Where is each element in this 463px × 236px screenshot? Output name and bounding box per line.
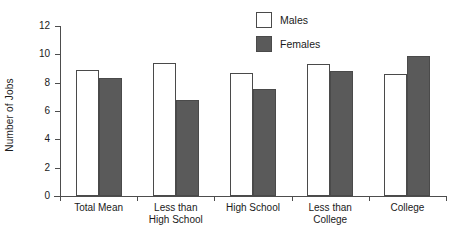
plot-area: 024681012 [60,26,446,196]
legend-label: Females [280,38,320,50]
bar-females-less-than-college [330,71,353,196]
x-category-label-line: Total Mean [60,202,137,214]
y-tick-label: 0 [26,191,50,201]
y-axis-line [60,26,61,196]
x-category-label-line: High School [137,214,214,226]
x-tick-mark [369,196,370,201]
y-tick-mark [55,83,60,84]
y-tick-mark [55,26,60,27]
bar-females-high-school [253,89,276,196]
y-tick-label: 2 [26,163,50,173]
bar-females-total-mean [99,78,122,196]
y-axis-title-label: Number of Jobs [4,60,15,170]
bar-males-college [384,74,407,196]
bar-males-less-than-college [307,64,330,196]
x-axis-line [54,196,446,197]
y-tick-label: 8 [26,78,50,88]
x-category-label: High School [214,202,291,214]
x-category-label: Less thanHigh School [137,202,214,225]
x-category-label-line: College [369,202,446,214]
x-category-label-line: Less than [292,202,369,214]
y-tick-label: 4 [26,134,50,144]
bar-females-less-than-high-school [176,100,199,196]
y-tick-mark [55,111,60,112]
y-tick-label: 10 [26,49,50,59]
x-category-label: Less thanCollege [292,202,369,225]
x-category-label-line: College [292,214,369,226]
x-tick-mark [60,196,61,201]
x-tick-mark [137,196,138,201]
x-tick-mark [214,196,215,201]
bar-males-less-than-high-school [153,63,176,196]
bar-males-total-mean [76,70,99,196]
legend-swatch-females [256,36,272,52]
x-category-label: Total Mean [60,202,137,214]
legend-label: Males [280,14,308,26]
bar-females-college [407,56,430,196]
bar-chart: Number of Jobs 024681012 Total MeanLess … [0,0,463,236]
x-tick-mark [446,196,447,201]
x-category-label: College [369,202,446,214]
y-tick-label: 6 [26,106,50,116]
x-category-label-line: Less than [137,202,214,214]
y-axis-title: Number of Jobs [4,0,15,60]
legend-swatch-males [256,12,272,28]
x-tick-mark [292,196,293,201]
y-tick-label: 12 [26,21,50,31]
bar-males-high-school [230,73,253,196]
y-tick-mark [55,168,60,169]
y-tick-mark [55,54,60,55]
x-category-label-line: High School [214,202,291,214]
y-tick-mark [55,139,60,140]
